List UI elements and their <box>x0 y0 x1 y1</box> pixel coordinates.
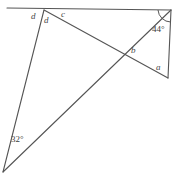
segment-bottom-left-to-top-right <box>3 10 171 172</box>
angle-label-d-left: d <box>31 12 36 21</box>
angle-label-d-right: d <box>44 16 49 25</box>
angle-label-32-degrees: 32° <box>11 135 24 144</box>
angle-label-c: c <box>61 10 65 19</box>
angle-label-b: b <box>131 46 136 55</box>
segment-apex-to-right-bottom <box>44 10 168 78</box>
angle-label-44-degrees: 44° <box>152 25 165 34</box>
segment-top-horizontal-line <box>7 8 171 10</box>
geometry-canvas <box>0 0 174 176</box>
angle-label-a: a <box>156 63 161 72</box>
geometry-figure: d d c b a 44° 32° <box>0 0 174 176</box>
segment-right-vertical-side <box>168 10 171 78</box>
segment-apex-to-bottom-left <box>3 10 44 172</box>
